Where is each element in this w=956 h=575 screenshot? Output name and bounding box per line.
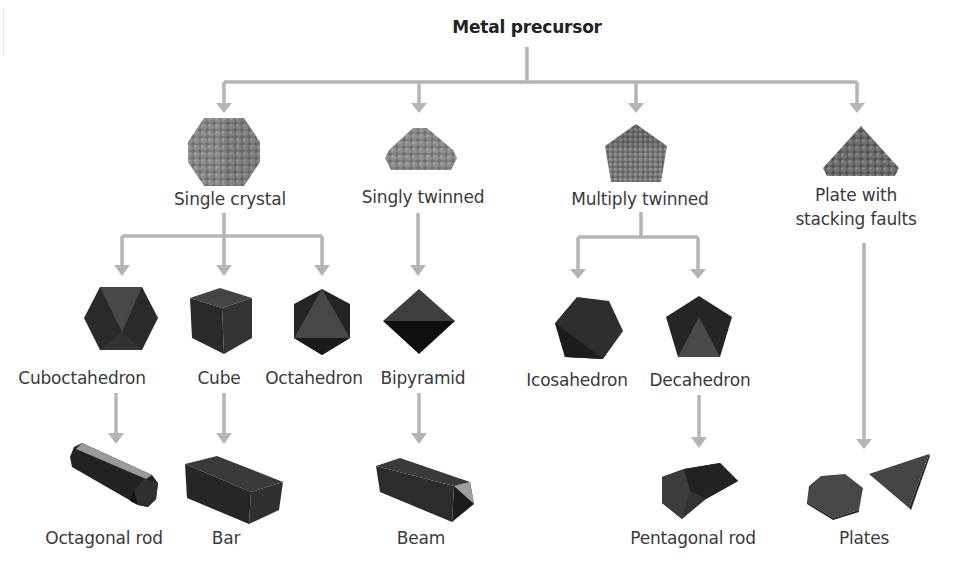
label-decahedron: Decahedron — [649, 368, 750, 392]
label-stacking-faults: stacking faults — [795, 207, 916, 231]
label-octagonal-rod: Octagonal rod — [45, 526, 163, 550]
label-cube: Cube — [197, 366, 240, 390]
twinned-cluster-icon — [383, 126, 459, 174]
cuboctahedron-icon — [82, 286, 160, 352]
plates-icon — [805, 452, 933, 522]
label-beam: Beam — [397, 526, 445, 550]
icosahedron-icon — [553, 295, 625, 361]
pentagonal-rod-icon — [660, 459, 740, 521]
beam-icon — [374, 456, 476, 524]
cuboctahedral-cluster-icon — [186, 116, 262, 188]
cube-icon — [188, 286, 254, 356]
label-cuboctahedron: Cuboctahedron — [18, 366, 145, 390]
label-bipyramid: Bipyramid — [381, 366, 466, 390]
triangular-cluster-icon — [819, 124, 903, 180]
label-multiply-twinned: Multiply twinned — [571, 187, 708, 211]
bipyramid-icon — [381, 288, 457, 356]
label-pentagonal-rod: Pentagonal rod — [630, 526, 755, 550]
octagonal-rod-icon — [68, 443, 164, 509]
decahedron-icon — [664, 295, 734, 359]
label-octahedron: Octahedron — [265, 366, 363, 390]
label-single-crystal: Single crystal — [174, 187, 286, 211]
bar-icon — [183, 454, 285, 526]
label-plate-with: Plate with — [815, 183, 897, 207]
label-bar: Bar — [212, 526, 240, 550]
label-icosahedron: Icosahedron — [526, 368, 628, 392]
label-singly-twinned: Singly twinned — [362, 185, 485, 209]
label-plates: Plates — [839, 526, 889, 550]
title-metal-precursor: Metal precursor — [452, 15, 602, 39]
octahedron-icon — [292, 288, 352, 356]
pentagonal-cluster-icon — [603, 122, 669, 184]
